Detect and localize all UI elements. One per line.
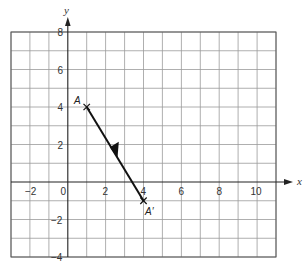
- svg-text:−2: −2: [51, 215, 63, 226]
- svg-text:8: 8: [217, 186, 223, 197]
- x-axis-label: x: [296, 175, 302, 187]
- y-axis-arrow-icon: [65, 17, 71, 26]
- svg-text:2: 2: [58, 140, 64, 151]
- x-axis-arrow-icon: [284, 179, 293, 185]
- coordinate-plane: x y −2 0 2 4 6 8 10 8 6 4 2 −2 −4 A A′: [0, 0, 303, 266]
- svg-text:2: 2: [103, 186, 109, 197]
- svg-text:8: 8: [58, 27, 64, 38]
- point-a-label: A: [73, 95, 81, 106]
- svg-text:−2: −2: [25, 186, 37, 197]
- y-tick-labels: 8 6 4 2 −2 −4: [51, 27, 64, 263]
- svg-text:6: 6: [179, 186, 185, 197]
- y-axis-label: y: [63, 4, 69, 16]
- x-tick-labels: −2 0 2 4 6 8 10: [25, 186, 262, 197]
- svg-text:6: 6: [58, 65, 64, 76]
- point-a-prime-label: A′: [144, 206, 155, 217]
- svg-text:10: 10: [251, 186, 263, 197]
- svg-text:4: 4: [58, 102, 64, 113]
- svg-text:−4: −4: [51, 252, 63, 263]
- svg-text:4: 4: [141, 186, 147, 197]
- svg-text:0: 0: [61, 186, 67, 197]
